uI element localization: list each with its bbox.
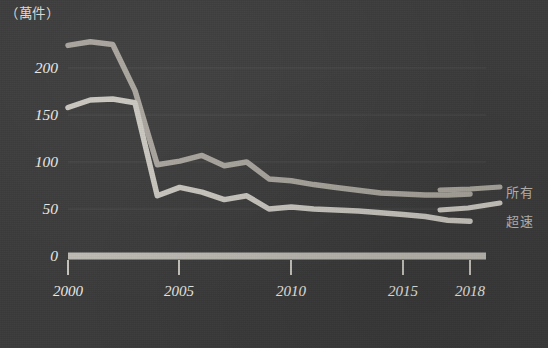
x-tick-2005: 2005 [164,283,194,300]
gridlines [68,68,486,209]
series-line-speeding [68,99,470,221]
x-tick-2015: 2015 [388,283,418,300]
legend-swatch-speeding [440,203,500,210]
x-tick-2018: 2018 [455,283,485,300]
legend-swatch-all [440,187,500,190]
x-tick-2000: 2000 [53,283,83,300]
legend-swatches [440,187,500,210]
chart-container: （萬件） 200 150 100 50 0 20 [0,0,548,348]
x-axis-ticks [68,260,470,275]
legend-label-speeding: 超速 [506,211,533,230]
x-tick-2010: 2010 [276,283,306,300]
series-line-all [68,42,470,195]
legend-label-all: 所有 [506,182,533,201]
